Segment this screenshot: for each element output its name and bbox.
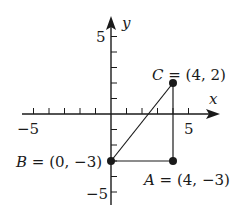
y-axis-label: y [121, 14, 131, 32]
segment-bc [111, 83, 173, 161]
x-tick-label-5: 5 [184, 120, 194, 138]
point-b [107, 157, 115, 165]
point-a-label: A = (4, −3) [142, 171, 230, 189]
point-b-label: B = (0, −3) [15, 153, 102, 171]
point-c-label: C = (4, 2) [152, 66, 226, 84]
y-tick-label-neg5: −5 [86, 185, 108, 203]
point-a [169, 157, 177, 165]
y-tick-label-5: 5 [96, 28, 106, 46]
x-tick-label-neg5: −5 [17, 120, 39, 138]
triangle-abc [111, 83, 173, 161]
x-axis-label: x [209, 90, 218, 108]
coordinate-plane: y x 5 −5 −5 5 C = (4, 2) B = (0, −3) A =… [0, 0, 240, 214]
